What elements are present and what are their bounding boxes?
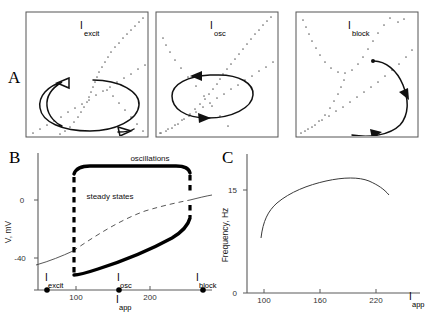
marker-block-sub: block	[199, 281, 217, 290]
figure-canvas: A	[0, 0, 435, 320]
phase-portrait-osc: I osc	[156, 12, 278, 137]
oscillation-max-branch	[74, 166, 190, 174]
panel-letter-b: B	[9, 148, 20, 167]
label-block-sub: block	[352, 29, 370, 38]
figure-root: A	[0, 0, 435, 320]
panelc-y-axis-title: Frequency, Hz	[220, 208, 230, 263]
panelb-yticklabel-neg40: -40	[14, 254, 26, 263]
panelc-yticklabel-0: 0	[233, 289, 238, 298]
trajectory-start-dot-block	[371, 59, 375, 63]
frequency-plot: 15 0 100 160 220 Frequency, Hz I app	[220, 154, 425, 309]
label-osc-sub: osc	[214, 29, 226, 38]
panelb-yticklabel-0: 0	[20, 196, 25, 205]
steady-state-unstable	[73, 200, 190, 251]
frequency-curve	[261, 178, 389, 238]
panelb-y-axis-title: V, mV	[3, 220, 13, 243]
panelc-xticklabel-220: 220	[369, 296, 383, 305]
label-excit-main: I	[80, 20, 83, 31]
annotation-steady-states: steady states	[86, 192, 133, 201]
bifurcation-diagram: 0 -40 100 200 V, mV I app oscillations s…	[3, 153, 217, 312]
panel-letter-a: A	[8, 68, 21, 87]
marker-osc-sub: osc	[120, 281, 132, 290]
panelb-x-axis-title-sub: app	[119, 303, 132, 312]
panelc-xticklabel-160: 160	[313, 296, 327, 305]
steady-state-stable-high	[190, 195, 212, 200]
panel-letter-c: C	[222, 148, 233, 167]
label-block-main: I	[348, 20, 351, 31]
label-excit-sub: excit	[84, 29, 100, 38]
phase-portrait-block: I block	[296, 12, 418, 139]
phase-portrait-excit: I excit	[26, 12, 148, 137]
annotation-oscillations: oscillations	[130, 154, 169, 163]
panelc-xticklabel-100: 100	[257, 296, 271, 305]
oscillation-min-branch	[74, 218, 190, 275]
panelb-xticklabel-200: 200	[143, 293, 157, 302]
steady-state-stable-low	[36, 251, 73, 265]
panelc-yticklabel-15: 15	[228, 186, 237, 195]
label-osc-main: I	[210, 20, 213, 31]
panelb-xticklabel-100: 100	[69, 293, 83, 302]
marker-excit-sub: excit	[48, 281, 64, 290]
panelc-x-axis-title-sub: app	[412, 300, 425, 309]
